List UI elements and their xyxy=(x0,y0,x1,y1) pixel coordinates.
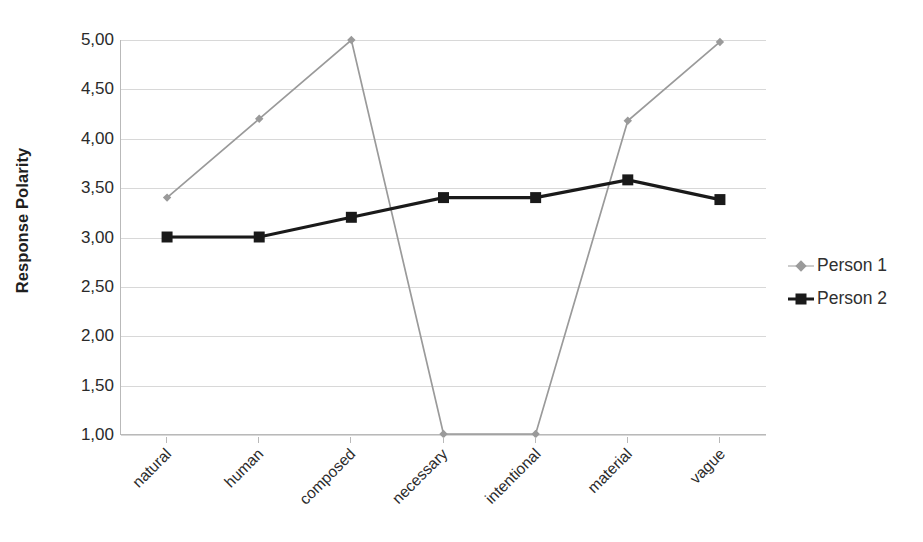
tick-mark xyxy=(627,437,628,443)
legend-marker-icon xyxy=(788,291,814,307)
series-line xyxy=(167,180,720,237)
x-axis-tick-label: intentional xyxy=(481,445,544,508)
tick-mark xyxy=(166,437,167,443)
data-point-marker xyxy=(162,232,173,243)
y-axis-tick-label: 1,00 xyxy=(2,425,114,445)
y-axis-tick-label: 3,50 xyxy=(2,178,114,198)
legend-item-1[interactable]: Person 1 xyxy=(788,249,923,282)
y-axis-tick-label: 4,00 xyxy=(2,129,114,149)
data-point-marker xyxy=(714,194,725,205)
chart-container: Response Polarity 1,001,502,002,503,003,… xyxy=(0,0,923,542)
series-lines xyxy=(121,40,766,434)
y-axis-tick-label: 4,50 xyxy=(2,79,114,99)
legend-label: Person 1 xyxy=(817,255,887,276)
legend-marker-icon xyxy=(788,258,814,274)
series-2 xyxy=(162,174,726,242)
data-point-marker xyxy=(346,212,357,223)
data-point-marker xyxy=(438,192,449,203)
tick-mark xyxy=(258,437,259,443)
tick-mark xyxy=(719,437,720,443)
x-axis-tick-label: natural xyxy=(129,445,175,491)
plot-area xyxy=(120,40,766,435)
x-axis-tick-label: human xyxy=(221,445,267,491)
x-axis-tick-labels: naturalhumancomposednecessaryintentional… xyxy=(120,437,766,542)
y-axis-tick-label: 2,00 xyxy=(2,326,114,346)
legend: Person 1Person 2 xyxy=(788,249,923,315)
y-axis-tick-label: 3,00 xyxy=(2,228,114,248)
legend-item-2[interactable]: Person 2 xyxy=(788,282,923,315)
x-axis-tick-label: necessary xyxy=(389,445,452,508)
x-axis-tick-label: material xyxy=(585,445,637,497)
y-axis-tick-label: 1,50 xyxy=(2,376,114,396)
data-point-marker xyxy=(530,192,541,203)
y-axis-tick-label: 2,50 xyxy=(2,277,114,297)
x-axis-tick-label: vague xyxy=(686,445,729,488)
x-axis-tick-label: composed xyxy=(296,445,359,508)
data-point-marker xyxy=(254,232,265,243)
y-axis-tick-labels: 1,001,502,002,503,003,504,004,505,00 xyxy=(0,40,114,435)
tick-mark xyxy=(535,437,536,443)
data-point-marker xyxy=(622,174,633,185)
y-axis-tick-label: 5,00 xyxy=(2,30,114,50)
tick-mark xyxy=(443,437,444,443)
tick-mark xyxy=(350,437,351,443)
legend-label: Person 2 xyxy=(817,288,887,309)
